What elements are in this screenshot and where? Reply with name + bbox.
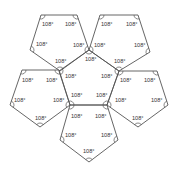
angle-arc	[86, 158, 92, 160]
angle-label: 108°	[46, 77, 58, 83]
angle-label: 108°	[55, 58, 67, 64]
angle-label: 108°	[73, 42, 85, 48]
angle-label: 108°	[22, 77, 34, 83]
angle-arc	[135, 123, 141, 125]
angle-label: 108°	[120, 77, 132, 83]
angle-arc	[86, 52, 93, 54]
angle-label: 108°	[65, 132, 77, 138]
angle-label: 108°	[151, 97, 163, 103]
angle-label: 108°	[71, 92, 83, 98]
angle-label: 108°	[85, 56, 97, 62]
angle-label: 108°	[14, 97, 26, 103]
angle-label: 108°	[144, 77, 156, 83]
angle-label: 108°	[101, 132, 113, 138]
angle-label: 108°	[94, 42, 106, 48]
angle-label: 108°	[42, 21, 54, 27]
angle-label: 108°	[114, 58, 126, 64]
angle-arc	[37, 123, 43, 125]
angle-label: 108°	[101, 73, 113, 79]
angle-label: 108°	[126, 21, 138, 27]
angle-label: 108°	[134, 42, 146, 48]
angle-label: 108°	[132, 115, 144, 121]
angle-label: 108°	[101, 21, 113, 27]
angle-label: 108°	[83, 148, 95, 154]
pentagon-diagram: 108°108°108°108°108°108°108°108°108°108°…	[0, 0, 178, 170]
angle-label: 108°	[95, 113, 107, 119]
angle-label: 108°	[115, 97, 127, 103]
angle-label: 108°	[65, 21, 77, 27]
angle-label: 108°	[96, 92, 108, 98]
angle-label: 108°	[35, 115, 47, 121]
diagram-canvas: 108°108°108°108°108°108°108°108°108°108°…	[0, 0, 178, 170]
angle-label: 108°	[53, 97, 65, 103]
angle-arc	[116, 67, 123, 69]
angle-label: 108°	[71, 113, 83, 119]
angle-label: 108°	[36, 41, 48, 47]
angle-label: 108°	[65, 73, 77, 79]
